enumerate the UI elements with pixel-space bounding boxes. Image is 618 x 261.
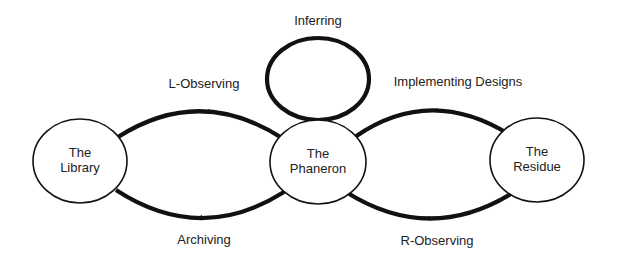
- r-observing-arc: [346, 192, 514, 219]
- archiving-arc: [116, 190, 284, 218]
- library-label-line1: The: [69, 145, 91, 160]
- l-observing-label: L-Observing: [169, 76, 240, 91]
- implementing-designs-arc: [355, 110, 510, 137]
- archiving-label: Archiving: [177, 232, 230, 247]
- edge-l-observing: [118, 111, 282, 138]
- edge-r-observing: [346, 192, 514, 219]
- residue-label-line1: The: [526, 144, 548, 159]
- edge-implementing-designs: [355, 110, 510, 137]
- edge-inferring: [267, 38, 369, 120]
- node-residue: The Residue: [490, 118, 584, 202]
- node-phaneron: The Phaneron: [270, 120, 366, 204]
- l-observing-arc: [118, 111, 282, 138]
- residue-label-line2: Residue: [513, 159, 561, 174]
- phaneron-label-line2: Phaneron: [290, 161, 346, 176]
- library-label-line2: Library: [60, 160, 100, 175]
- implementing-designs-label: Implementing Designs: [394, 74, 523, 89]
- node-library: The Library: [33, 119, 127, 203]
- r-observing-label: R-Observing: [401, 233, 474, 248]
- phaneron-label-line1: The: [307, 146, 329, 161]
- edge-archiving: [116, 190, 284, 218]
- inferring-loop: [267, 38, 369, 120]
- phaneron-cycle-diagram: The Library The Phaneron The Residue L-O…: [0, 0, 618, 261]
- inferring-label: Inferring: [294, 13, 342, 28]
